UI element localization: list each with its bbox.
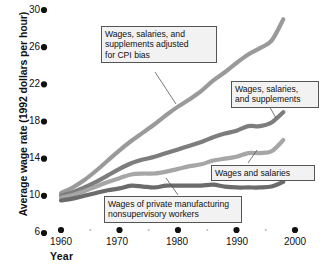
callout-wages-salaries: Wages and salaries <box>211 165 315 181</box>
callout-wages-supplements: Wages, salaries, and supplements <box>231 81 319 108</box>
wage-rate-line-chart: Average wage rate (1992 dollars per hour… <box>0 0 322 272</box>
callout-cpi-adjusted: Wages, salaries, and supplements adjuste… <box>101 26 217 63</box>
y-tick-dots <box>41 7 47 236</box>
callout-manufacturing: Wages of private manufacturing nonsuperv… <box>104 196 242 223</box>
x-tick-dots <box>58 227 298 233</box>
